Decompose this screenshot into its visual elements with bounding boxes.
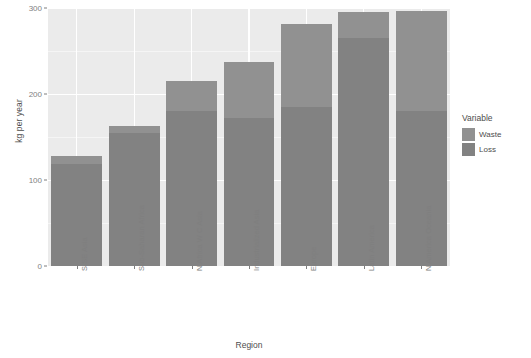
bar-stack [396,8,447,266]
x-tick-label: Sub-Saharan Africa [137,205,146,271]
legend-item: Loss [462,142,501,157]
bar-stack [109,8,160,266]
bar-segment-loss [224,118,275,266]
bar-segment-loss [51,164,102,266]
y-tick-mark [44,266,47,267]
x-tick-label: Industrialized Asia [252,210,261,271]
x-tick-mark [306,266,307,269]
x-tick-label: N America Oceania [424,206,433,271]
y-tick-label: 0 [14,262,42,271]
bar-segment-waste [224,62,275,118]
y-tick-label: 300 [14,4,42,13]
bar-segment-waste [396,11,447,112]
x-tick-label: Latin America [367,225,376,271]
legend-title: Variable [462,113,501,123]
x-tick-mark [421,266,422,269]
bar-segment-waste [281,24,332,107]
legend-label: Loss [479,145,496,154]
x-axis-title: Region [48,340,450,350]
plot-panel [48,8,450,266]
bar-segment-waste [51,156,102,164]
bar-segment-loss [338,38,389,266]
legend-swatch [462,128,475,141]
bar-stack [338,8,389,266]
x-tick-label: Europe [309,247,318,272]
x-tick-mark [249,266,250,269]
x-tick-mark [77,266,78,269]
bar-segment-loss [109,133,160,266]
bar-segment-loss [166,111,217,266]
x-tick-mark [192,266,193,269]
bar-segment-waste [166,81,217,111]
bar-stack [281,8,332,266]
x-tick-label: N Africa W C Asia [195,211,204,271]
bar-stack [166,8,217,266]
y-tick-mark [44,8,47,9]
bar-segment-waste [338,12,389,38]
legend-items: WasteLoss [462,127,501,157]
y-tick-label: 200 [14,90,42,99]
legend-item: Waste [462,127,501,142]
bar-stack [224,8,275,266]
bar-stack [51,8,102,266]
x-tick-mark [364,266,365,269]
x-tick-mark [134,266,135,269]
legend-label: Waste [479,130,501,139]
y-tick-label: 100 [14,176,42,185]
x-tick-label: S SE Asia [80,237,89,271]
stacked-bar-chart: kg per year 0100200300 S SE AsiaSub-Saha… [0,0,531,358]
bar-segment-loss [281,107,332,266]
legend: Variable WasteLoss [462,113,501,157]
y-tick-mark [44,180,47,181]
legend-swatch [462,143,475,156]
bar-segment-loss [396,111,447,266]
y-tick-mark [44,94,47,95]
bar-segment-waste [109,126,160,133]
